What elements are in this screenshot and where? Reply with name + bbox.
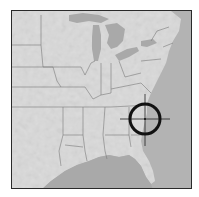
target-center-dot <box>144 118 146 120</box>
map-canvas[interactable] <box>12 11 192 189</box>
map-frame <box>11 10 192 189</box>
